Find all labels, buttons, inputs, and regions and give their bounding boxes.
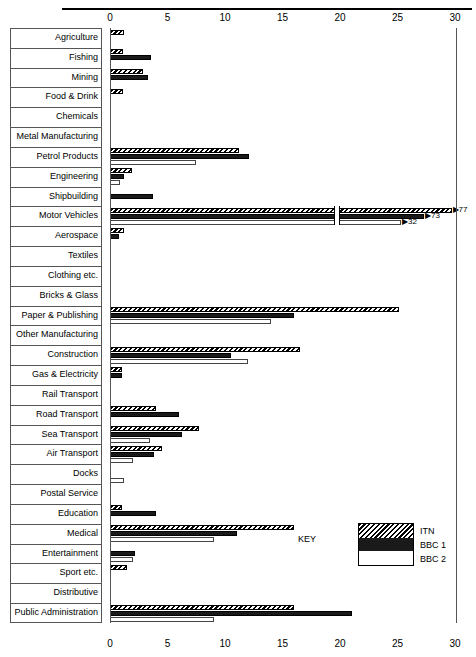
bar-itn (110, 307, 399, 312)
bar-bbc2 (110, 438, 150, 443)
category-label: Bricks & Glass (10, 286, 102, 306)
bar-itn (110, 525, 294, 530)
x-tick-30: 30 (440, 637, 470, 651)
x-tick-10: 10 (210, 637, 240, 651)
category-label: Textiles (10, 246, 102, 266)
category-label: Medical (10, 524, 102, 544)
chart-row (110, 107, 455, 127)
category-label: Entertainment (10, 544, 102, 564)
legend-swatch-box (358, 523, 414, 566)
chart-row (110, 147, 455, 167)
category-label: Motor Vehicles (10, 206, 102, 226)
overflow-value-label: ▶73 (425, 212, 440, 220)
bar-bbc1 (110, 194, 153, 199)
x-tick-20: 20 (325, 637, 355, 651)
chart-row (110, 365, 455, 385)
bar-itn (110, 605, 294, 610)
category-label: Docks (10, 464, 102, 484)
legend-swatch-bbc2 (359, 551, 413, 565)
x-tick-0: 0 (95, 11, 125, 25)
chart-row (110, 504, 455, 524)
category-label: Other Manufacturing (10, 325, 102, 345)
bar-itn (110, 426, 199, 431)
chart-row (110, 385, 455, 405)
chart-row (110, 226, 455, 246)
category-label: Road Transport (10, 405, 102, 425)
bar-itn (110, 148, 239, 153)
category-label: Agriculture (10, 28, 102, 48)
chart-row (110, 87, 455, 107)
category-label: Gas & Electricity (10, 365, 102, 385)
chart-row (110, 167, 455, 187)
category-label: Petrol Products (10, 147, 102, 167)
category-label: Clothing etc. (10, 266, 102, 286)
category-label: Aerospace (10, 226, 102, 246)
category-label: Shipbuilding (10, 187, 102, 207)
bar-bbc2 (110, 359, 248, 364)
bar-bbc2 (110, 160, 196, 165)
x-tick-15: 15 (268, 11, 298, 25)
chart-row (110, 286, 455, 306)
bar-bbc1 (110, 412, 179, 417)
chart-row (110, 127, 455, 147)
bar-bbc2 (110, 319, 271, 324)
legend-swatch-itn (359, 524, 413, 538)
bar-bbc1 (110, 313, 294, 318)
category-label: Public Administration (10, 603, 102, 623)
bar-bbc1 (110, 214, 424, 219)
chart-row (110, 583, 455, 603)
category-label: Distributive (10, 583, 102, 603)
bar-itn (110, 69, 143, 74)
legend-label-itn: ITN (420, 526, 435, 537)
category-label: Mining (10, 68, 102, 88)
bar-bbc2 (110, 617, 214, 622)
category-label: Engineering (10, 167, 102, 187)
bar-bbc1 (110, 551, 135, 556)
legend-label-bbc1: BBC 1 (420, 540, 446, 551)
horizontal-bar-chart: 051015202530 AgricultureFishingMiningFoo… (0, 0, 476, 657)
bar-itn (110, 347, 300, 352)
legend-label-bbc2: BBC 2 (420, 554, 446, 565)
x-tick-25: 25 (383, 11, 413, 25)
bar-bbc1 (110, 174, 124, 179)
chart-row (110, 444, 455, 464)
category-label: Metal Manufacturing (10, 127, 102, 147)
bar-itn (110, 367, 122, 372)
bar-itn (110, 505, 122, 510)
bar-itn (110, 446, 162, 451)
category-label: Sea Transport (10, 425, 102, 445)
bar-bbc2 (110, 537, 214, 542)
chart-row (110, 325, 455, 345)
chart-row (110, 464, 455, 484)
category-label: Fishing (10, 48, 102, 68)
bar-bbc1 (110, 531, 237, 536)
category-label: Rail Transport (10, 385, 102, 405)
bar-bbc2 (110, 557, 133, 562)
legend: KEY ITN BBC 1 BBC 2 (330, 523, 470, 569)
x-axis-top: 051015202530 (0, 11, 476, 25)
category-label: Food & Drink (10, 87, 102, 107)
legend-title: KEY (298, 534, 316, 544)
x-tick-20: 20 (325, 11, 355, 25)
bar-bbc1 (110, 452, 154, 457)
bar-bbc1 (110, 234, 119, 239)
x-tick-15: 15 (268, 637, 298, 651)
x-tick-5: 5 (153, 637, 183, 651)
bar-itn (110, 406, 156, 411)
overflow-value-label: ▶77 (453, 206, 468, 214)
category-label: Education (10, 504, 102, 524)
x-tick-10: 10 (210, 11, 240, 25)
chart-row (110, 246, 455, 266)
bar-itn (110, 228, 124, 233)
category-label-column: AgricultureFishingMiningFood & DrinkChem… (10, 28, 102, 623)
bar-itn (110, 168, 132, 173)
category-label: Postal Service (10, 484, 102, 504)
chart-row (110, 345, 455, 365)
chart-row: ▶77▶73▶32 (110, 206, 455, 226)
chart-row (110, 425, 455, 445)
x-tick-25: 25 (383, 637, 413, 651)
legend-swatch-bbc1 (359, 538, 413, 552)
bar-bbc2 (110, 180, 120, 185)
bar-bbc2 (110, 220, 401, 225)
axis-break-marker (334, 206, 340, 225)
